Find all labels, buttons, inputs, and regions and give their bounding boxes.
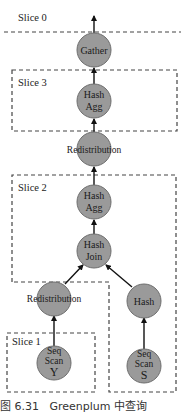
node-redistribution-top: Redistribution (67, 132, 122, 166)
edge-hash-hashjoin (106, 265, 132, 287)
svg-text:Seq: Seq (137, 349, 152, 359)
node-hash: Hash (127, 284, 161, 318)
node-seq-scan-s: Seq Scan S (127, 349, 161, 383)
slice1-label: Slice 1 (12, 336, 41, 347)
node-seq-scan-y: Seq Scan Y (37, 346, 71, 380)
node-hash-join: Hash Join (77, 234, 111, 268)
svg-text:Join: Join (86, 251, 103, 262)
svg-text:Redistribution: Redistribution (67, 145, 122, 155)
edge-redistribution-hashjoin (65, 265, 83, 284)
svg-text:Hash: Hash (84, 239, 105, 250)
svg-text:Seq: Seq (47, 346, 62, 356)
slice2-label: Slice 2 (18, 182, 47, 193)
figure-title: Greenplum 中查询 (50, 400, 148, 413)
slice0-label: Slice 0 (18, 12, 47, 23)
svg-text:Hash: Hash (134, 296, 155, 307)
node-hash-agg-mid: Hash Agg (77, 185, 111, 219)
figure-caption: 图 6.31 Greenplum 中查询 (0, 397, 183, 413)
svg-text:Agg: Agg (85, 202, 102, 213)
svg-text:Gather: Gather (80, 45, 108, 56)
slice3-label: Slice 3 (18, 77, 47, 88)
svg-text:Y: Y (50, 365, 59, 379)
svg-text:Hash: Hash (84, 89, 105, 100)
svg-text:Agg: Agg (85, 101, 102, 112)
query-plan-diagram: Slice 0 Slice 3 Slice 2 Slice 1 Gather H… (0, 0, 183, 416)
svg-text:Redistribution: Redistribution (27, 294, 82, 304)
node-hash-agg-top: Hash Agg (77, 84, 111, 118)
figure-number: 图 6.31 (0, 400, 39, 413)
svg-text:Hash: Hash (84, 190, 105, 201)
svg-text:S: S (141, 368, 148, 382)
node-redistribution-bottom: Redistribution (27, 282, 82, 316)
node-gather: Gather (77, 33, 111, 67)
